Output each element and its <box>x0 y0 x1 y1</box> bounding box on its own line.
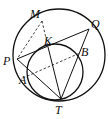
label-Q: Q <box>91 18 100 30</box>
segment-QT <box>61 29 89 99</box>
label-M: M <box>30 8 40 20</box>
label-K: K <box>44 35 52 47</box>
label-B: B <box>81 46 88 58</box>
label-A: A <box>19 74 26 86</box>
label-P: P <box>3 55 10 67</box>
label-T: T <box>55 104 62 116</box>
segment-PQ <box>17 29 89 59</box>
inner-circle <box>27 44 83 100</box>
segment-KT <box>48 47 61 99</box>
geometry-diagram: M Q P K B A T <box>0 0 108 119</box>
